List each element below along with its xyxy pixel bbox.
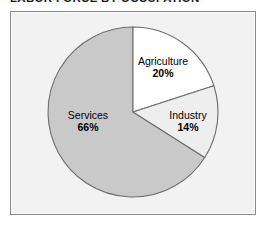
slice-label-services-name: Services <box>56 109 120 121</box>
slice-label-services: Services 66% <box>56 109 120 133</box>
slice-label-agriculture-name: Agriculture <box>126 55 200 67</box>
chart-frame <box>10 11 256 215</box>
slice-label-agriculture: Agriculture 20% <box>126 55 200 79</box>
slice-label-industry: Industry 14% <box>158 109 218 133</box>
slice-label-industry-value: 14% <box>158 121 218 133</box>
slice-label-services-value: 66% <box>56 121 120 133</box>
chart-page: LABOR FORCE BY OCCUPATION Agriculture 20… <box>0 0 268 229</box>
slice-label-agriculture-value: 20% <box>126 67 200 79</box>
chart-title: LABOR FORCE BY OCCUPATION <box>10 0 258 5</box>
slice-label-industry-name: Industry <box>158 109 218 121</box>
